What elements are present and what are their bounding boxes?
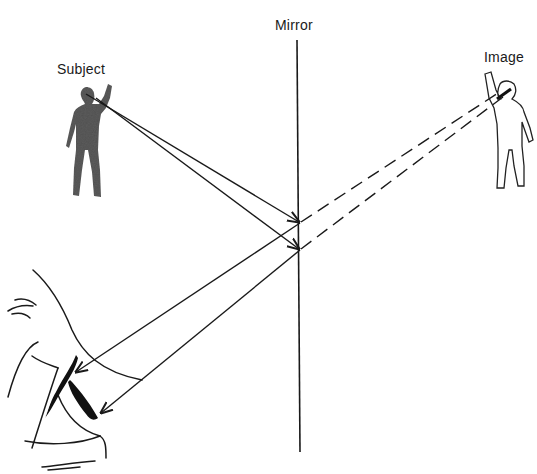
subject-figure-icon <box>66 84 112 197</box>
virtual-ray-2 <box>301 97 503 249</box>
incident-ray-1 <box>86 94 299 222</box>
mirror-reflection-diagram: Mirror Subject Image <box>0 0 537 474</box>
incident-ray-2 <box>96 98 299 249</box>
image-label: Image <box>484 49 524 65</box>
virtual-ray-1 <box>301 93 498 222</box>
mirror-label: Mirror <box>275 17 313 33</box>
subject-label: Subject <box>57 61 105 77</box>
mirror-line <box>297 40 300 452</box>
observer-eye-icon <box>8 270 142 470</box>
eye-lens-shape <box>68 380 98 420</box>
reflected-ray-1 <box>76 223 300 372</box>
reflected-ray-2 <box>101 250 300 413</box>
image-eye-mark <box>497 89 511 99</box>
